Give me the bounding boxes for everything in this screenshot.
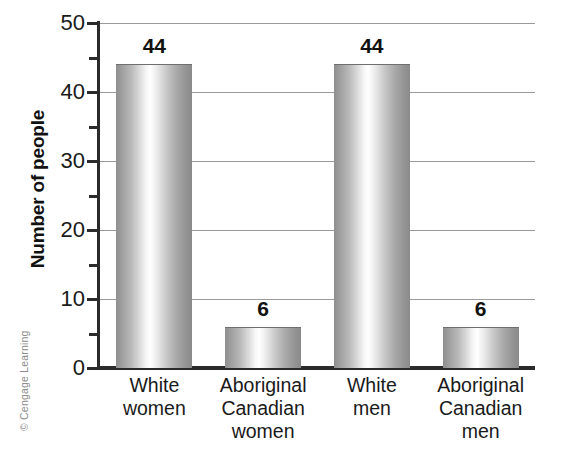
y-axis-major-tick xyxy=(87,298,98,301)
y-axis-minor-tick xyxy=(89,57,98,60)
x-axis-label-line: women xyxy=(123,397,186,419)
copyright-credit: © Cengage Learning xyxy=(18,291,30,431)
y-axis-tick-label: 30 xyxy=(61,148,85,174)
x-axis-label-line: Canadian xyxy=(439,397,522,419)
x-axis-label-line: women xyxy=(232,420,295,442)
x-axis-label-line: White xyxy=(347,374,397,396)
bar[interactable] xyxy=(116,64,192,368)
y-axis-minor-tick xyxy=(89,264,98,267)
y-axis-major-tick xyxy=(87,91,98,94)
y-axis-tick-label: 50 xyxy=(61,10,85,36)
bar-slot: 6 xyxy=(225,23,301,368)
x-axis-label-line: Aboriginal xyxy=(437,374,524,396)
bar-value-label: 6 xyxy=(225,297,301,321)
x-axis-label: Whitewomen xyxy=(100,374,209,420)
bar[interactable] xyxy=(443,327,519,368)
bar-slot: 44 xyxy=(334,23,410,368)
x-axis-label-line: men xyxy=(353,397,391,419)
y-axis-tick-label: 10 xyxy=(61,286,85,312)
y-axis-major-tick xyxy=(87,229,98,232)
bar[interactable] xyxy=(334,64,410,368)
x-axis-labels-group: WhitewomenAboriginalCanadianwomenWhiteme… xyxy=(100,374,535,460)
bar-slot: 6 xyxy=(443,23,519,368)
bar-value-label: 44 xyxy=(334,34,410,58)
y-axis-major-tick xyxy=(87,367,98,370)
y-axis-major-tick xyxy=(87,160,98,163)
x-axis-label-line: White xyxy=(129,374,179,396)
x-axis-label: AboriginalCanadianwomen xyxy=(209,374,318,443)
y-axis-minor-tick xyxy=(89,126,98,129)
bar-value-label: 44 xyxy=(116,34,192,58)
x-axis-label: Whitemen xyxy=(318,374,427,420)
y-axis-major-tick xyxy=(87,22,98,25)
y-axis-tick-label: 40 xyxy=(61,79,85,105)
bar-chart-figure: © Cengage Learning Number of people 0102… xyxy=(0,0,571,462)
x-axis-label-line: Aboriginal xyxy=(220,374,307,396)
y-axis-minor-tick xyxy=(89,195,98,198)
bar[interactable] xyxy=(225,327,301,368)
y-axis-title: Number of people xyxy=(27,89,49,289)
x-axis-label-line: men xyxy=(462,420,500,442)
y-axis-tick-label: 0 xyxy=(73,355,85,381)
x-axis-label-line: Canadian xyxy=(221,397,304,419)
x-axis-label: AboriginalCanadianmen xyxy=(426,374,535,443)
bar-slot: 44 xyxy=(116,23,192,368)
y-axis-minor-tick xyxy=(89,333,98,336)
bar-value-label: 6 xyxy=(443,297,519,321)
plot-area: 01020304050 446446 xyxy=(100,23,535,368)
y-axis-tick-label: 20 xyxy=(61,217,85,243)
